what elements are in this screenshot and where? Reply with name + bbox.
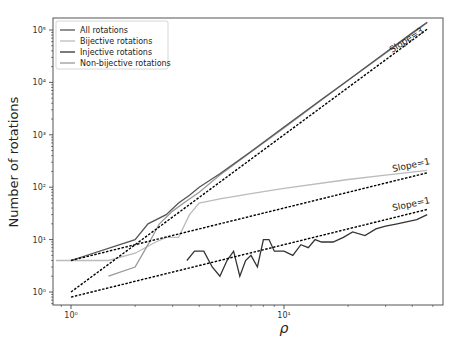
log-log-chart: 10⁰10¹10²10³10⁴10⁵ 10⁰10¹ Number of rota… bbox=[0, 0, 460, 348]
y-tick-label: 10¹ bbox=[33, 236, 46, 245]
y-tick-label: 10⁵ bbox=[33, 26, 46, 35]
legend-label: Injective rotations bbox=[80, 48, 152, 57]
x-tick-label: 10⁰ bbox=[64, 311, 77, 320]
legend-label: All rotations bbox=[80, 26, 128, 35]
y-tick-label: 10⁴ bbox=[33, 78, 46, 87]
x-tick-label: 10¹ bbox=[277, 311, 290, 320]
y-axis-label: Number of rotations bbox=[6, 96, 21, 227]
y-tick-label: 10⁰ bbox=[33, 288, 46, 297]
x-axis-label: ρ bbox=[280, 320, 289, 336]
legend-label: Non-bijective rotations bbox=[80, 59, 171, 68]
y-tick-label: 10² bbox=[33, 183, 46, 192]
legend-label: Bijective rotations bbox=[80, 37, 152, 46]
legend: All rotationsBijective rotationsInjectiv… bbox=[56, 21, 171, 69]
y-tick-label: 10³ bbox=[33, 131, 46, 140]
